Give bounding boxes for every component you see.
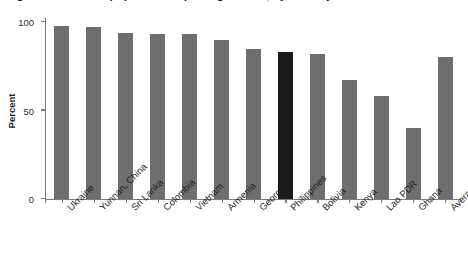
x-tick-mark [445,199,446,203]
x-tick-label: Bolivia [320,205,328,213]
x-tick-mark [413,199,414,203]
x-tick-label: Lao PDR [384,205,392,213]
x-tick-label: Ukraine [65,205,73,213]
bar-chart-figure: Figure: Percent of population reporting … [0,0,468,275]
x-tick-label: Average [448,205,456,213]
x-tick-label: Vietnam [193,205,201,213]
x-tick-label: Georgia [257,205,265,213]
bar [278,52,293,199]
x-tick-mark [158,199,159,203]
y-tick-mark [41,198,46,199]
x-tick-label: Yunnan, China [97,205,105,213]
y-tick-label: 100 [18,17,34,28]
y-tick-mark [41,21,46,22]
x-tick-mark [381,199,382,203]
x-tick-mark [190,199,191,203]
x-tick-mark [349,199,350,203]
plot-area: 050100 UkraineYunnan, ChinaSri LankaColo… [46,22,461,199]
y-axis-line [45,18,46,203]
x-tick-label: Armenia [225,205,233,213]
x-tick-mark [222,199,223,203]
x-tick-mark [254,199,255,203]
bar [374,96,389,199]
bar [246,49,261,199]
y-tick-label: 0 [29,194,34,205]
x-tick-mark [285,199,286,203]
x-tick-label: Kenya [352,205,360,213]
x-tick-mark [62,199,63,203]
y-tick-label: 50 [23,105,34,116]
bar [342,80,357,199]
y-tick-mark [41,109,46,110]
bar [182,34,197,199]
x-tick-mark [126,199,127,203]
bar [86,27,101,199]
x-tick-label: Colombia [161,205,169,213]
x-tick-label: Sri Lanka [129,205,137,213]
x-tick-mark [317,199,318,203]
x-tick-label: Philippines [288,205,296,213]
bar [438,57,453,199]
bar [54,26,69,199]
bar [214,40,229,199]
x-tick-mark [94,199,95,203]
bar [150,34,165,199]
y-axis-title: Percent [6,94,17,129]
chart-title-clipped: Figure: Percent of population reporting … [0,0,468,9]
x-tick-label: Ghana [416,205,424,213]
chart-title: Figure: Percent of population reporting … [6,0,333,1]
